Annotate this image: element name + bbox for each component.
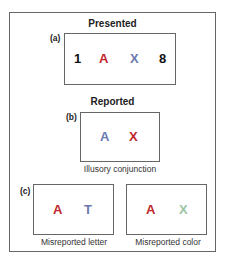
letter-item-t: T bbox=[84, 202, 92, 217]
letter-item-a: A bbox=[53, 202, 62, 217]
illusory-box: A X bbox=[80, 112, 160, 162]
misreported-color-caption: Misreported color bbox=[122, 237, 214, 247]
color-item-a: A bbox=[146, 202, 155, 217]
misreported-color-box: A X bbox=[126, 184, 207, 235]
misreported-letter-box: A T bbox=[33, 184, 114, 235]
label-c: (c) bbox=[20, 186, 30, 196]
presented-item-x: X bbox=[130, 51, 139, 66]
presented-item-8: 8 bbox=[159, 51, 166, 66]
reported-title: Reported bbox=[0, 96, 225, 107]
label-b: (b) bbox=[66, 112, 77, 122]
presented-item-1: 1 bbox=[74, 51, 81, 66]
misreported-letter-caption: Misreported letter bbox=[28, 237, 120, 247]
illusory-caption: Illusory conjunction bbox=[60, 164, 180, 174]
presented-box: 1 A X 8 bbox=[64, 33, 176, 85]
label-a: (a) bbox=[50, 33, 60, 43]
color-item-x: X bbox=[179, 202, 188, 217]
illusory-item-x: X bbox=[129, 129, 138, 144]
illusory-item-a: A bbox=[100, 129, 109, 144]
presented-title: Presented bbox=[0, 18, 225, 29]
presented-item-a: A bbox=[99, 51, 108, 66]
